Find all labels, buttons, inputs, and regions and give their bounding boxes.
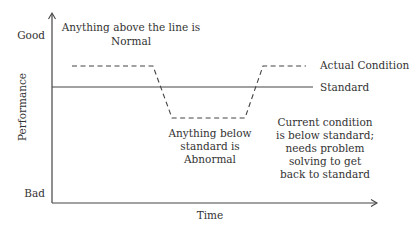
annotation-line: is below standard; <box>276 129 374 141</box>
standard-label: Standard <box>320 81 369 93</box>
annotation-line: Abnormal <box>183 153 237 165</box>
annotation-line: needs problem <box>286 142 365 154</box>
annotation-line: back to standard <box>280 168 370 180</box>
y-axis-bottom-label: Bad <box>24 187 45 199</box>
performance-vs-standard-diagram: Good Bad Performance Time Actual Conditi… <box>0 0 412 230</box>
annotation-line: standard is <box>180 140 239 152</box>
y-axis-top-label: Good <box>17 29 45 41</box>
y-axis-title: Performance <box>16 73 28 141</box>
annotation-above-normal: Anything above the line is Normal <box>61 21 201 47</box>
annotation-line: solving to get <box>289 155 362 167</box>
annotation-line: Current condition <box>277 116 372 128</box>
annotation-line: Anything above the line is <box>61 21 201 33</box>
annotation-current-condition: Current condition is below standard; nee… <box>276 116 374 180</box>
annotation-line: Anything below <box>167 127 251 139</box>
x-axis-title: Time <box>197 209 224 221</box>
annotation-below-abnormal: Anything below standard is Abnormal <box>167 127 251 165</box>
annotation-line: Normal <box>111 35 152 47</box>
actual-condition-line <box>72 66 306 118</box>
actual-condition-label: Actual Condition <box>319 59 409 71</box>
